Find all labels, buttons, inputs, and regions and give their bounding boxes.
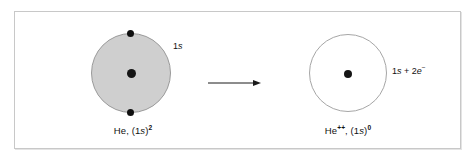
species-left-superscript: 2	[148, 124, 152, 131]
electron-dot-top	[127, 30, 134, 37]
figure-frame: 1s He, (1s)2 1s + 2e− He++, (1s)0	[14, 11, 461, 149]
species-label-left: He, (1s)2	[87, 125, 179, 136]
reaction-arrow	[207, 77, 261, 89]
orbital-label-1s-left: 1s	[173, 41, 183, 51]
species-right-comma: , (1	[345, 125, 359, 136]
orbital-label-right-operator: + 2	[402, 66, 417, 76]
electron-dot-bottom	[127, 109, 134, 116]
diagram-stage: 1s He, (1s)2 1s + 2e− He++, (1s)0	[15, 12, 460, 148]
species-right-charge: ++	[337, 124, 345, 131]
species-right-superscript: 0	[367, 124, 371, 131]
nucleus-left	[127, 69, 136, 78]
atom-helium-neutral: 1s He, (1s)2	[91, 22, 187, 140]
atom-helium-doubly-ionized: 1s + 2e− He++, (1s)0	[295, 22, 445, 140]
species-label-right: He++, (1s)0	[302, 125, 394, 136]
species-left-element: He,	[114, 125, 129, 136]
nucleus-right	[344, 70, 352, 78]
orbital-label-right-superscript: −	[422, 64, 426, 71]
species-left-open: (1	[129, 125, 140, 136]
species-right-element: He	[325, 125, 337, 136]
orbital-label-left-italic: s	[178, 41, 183, 51]
orbital-label-1s-right: 1s + 2e−	[392, 66, 426, 76]
